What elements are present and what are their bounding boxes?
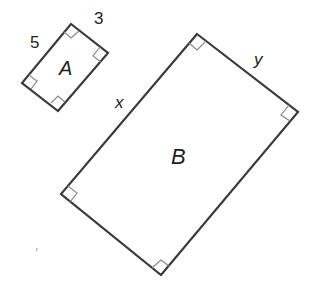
right-angle-icon: [281, 105, 290, 121]
rectangles-drawing: [0, 0, 310, 289]
right-angle-icon: [152, 260, 169, 268]
right-angle-icon: [189, 41, 206, 50]
rectangle-a-side-label-3: 3: [94, 10, 103, 27]
right-angle-icon: [93, 47, 101, 62]
artifact-speck: [36, 248, 38, 251]
rectangle-b-label: B: [171, 146, 186, 168]
right-angle-icon: [51, 96, 65, 103]
right-angle-icon: [64, 31, 79, 38]
diagram-canvas: 5 3 A x y B: [0, 0, 310, 289]
rectangle-b-side-label-y: y: [254, 51, 263, 68]
rectangle-a-label: A: [59, 58, 72, 78]
rectangle-a-side-label-5: 5: [30, 34, 39, 51]
right-angle-icon: [29, 75, 37, 89]
rectangle-b-side-label-x: x: [115, 94, 124, 111]
